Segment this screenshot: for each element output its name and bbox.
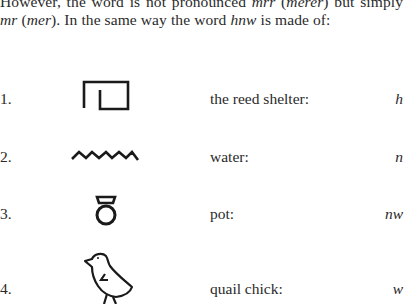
item-label: quail chick:: [210, 280, 283, 298]
text-segment: However, the word is not pronounced: [0, 0, 252, 10]
text-segment: (: [275, 0, 286, 10]
text-segment: is made of:: [257, 11, 331, 28]
word-merer: merer: [286, 0, 323, 10]
list-item: 4. quail chick: w: [0, 280, 405, 300]
item-transliteration: h: [395, 90, 403, 108]
reed-shelter-icon: [80, 78, 132, 114]
item-number: 4.: [0, 280, 12, 298]
water-icon: [70, 148, 142, 164]
item-number: 1.: [0, 90, 12, 108]
item-label: the reed shelter:: [210, 90, 309, 108]
intro-paragraph: However, the word is not pronounced mrr …: [0, 0, 403, 29]
list-item: 1. the reed shelter: h: [0, 90, 405, 110]
item-transliteration: w: [393, 280, 403, 298]
word-mr: mr: [0, 11, 17, 28]
list-item: 2. water: n: [0, 148, 405, 168]
item-transliteration: nw: [385, 205, 403, 223]
item-label: pot:: [210, 205, 234, 223]
text-segment: ) but simply: [323, 0, 403, 10]
item-number: 2.: [0, 148, 12, 166]
text-segment: ). In the same way the word: [51, 11, 230, 28]
text-segment: (: [17, 11, 26, 28]
item-label: water:: [210, 148, 249, 166]
item-number: 3.: [0, 205, 12, 223]
quail-chick-icon: [80, 250, 140, 304]
word-mrr: mrr: [252, 0, 276, 10]
pot-icon: [92, 195, 120, 229]
word-hnw: hnw: [230, 11, 256, 28]
item-transliteration: n: [395, 148, 403, 166]
list-item: 3. pot: nw: [0, 205, 405, 225]
word-mer: mer: [27, 11, 51, 28]
